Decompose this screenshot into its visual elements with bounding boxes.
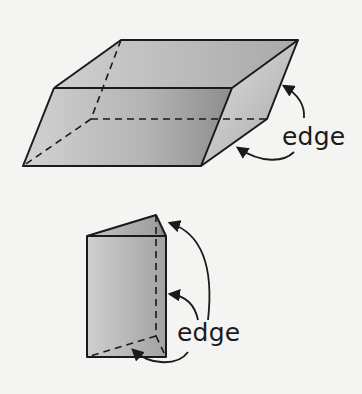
- prism-front-face: [87, 236, 166, 357]
- arrow-icon: [170, 294, 198, 320]
- parallelepiped-figure: [23, 40, 304, 166]
- arrow-icon: [284, 86, 304, 118]
- edge-label-parallelepiped: edge: [282, 124, 345, 149]
- arrow-icon: [170, 223, 209, 320]
- edge-label-prism: edge: [177, 320, 240, 345]
- diagram-canvas: edge edge: [0, 0, 362, 394]
- front-face: [23, 88, 232, 166]
